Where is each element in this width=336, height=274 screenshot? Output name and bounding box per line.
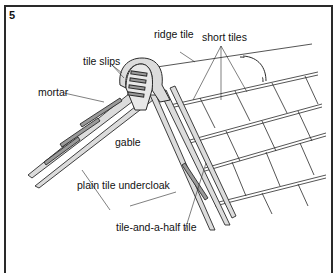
label-gable: gable — [115, 137, 141, 148]
label-ridge-tile: ridge tile — [154, 29, 194, 40]
roof-tile-courses — [150, 44, 326, 214]
label-tile-and-a-half-tile: tile-and-a-half tile — [116, 222, 197, 233]
label-mortar: mortar — [38, 87, 68, 98]
label-tile-slips: tile slips — [83, 56, 120, 67]
label-short-tiles: short tiles — [202, 32, 247, 43]
ridge-tile-end — [240, 56, 266, 82]
right-slope — [150, 86, 236, 230]
label-plain-tile-undercloak: plain tile undercloak — [77, 180, 170, 191]
